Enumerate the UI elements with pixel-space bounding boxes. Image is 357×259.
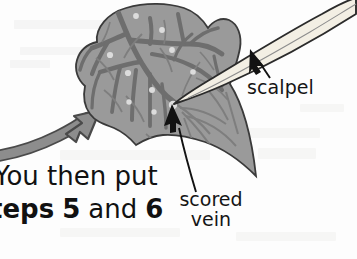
body-text-step-number-6: 6	[145, 194, 163, 224]
scored-vein-label: scoredvein	[163, 190, 259, 230]
body-text-and: and	[88, 194, 137, 224]
scored-vein-label-line1: scored	[179, 188, 242, 210]
leaf	[76, 4, 256, 176]
scored-vein-label-line2: vein	[163, 210, 259, 230]
curved-direction-arrow	[0, 110, 100, 157]
body-text-line-1: You then put	[0, 163, 158, 190]
illustration-page: scalpel scoredvein You then put teps5and…	[0, 0, 357, 259]
body-text-bold-steps: teps	[0, 194, 54, 224]
body-text-line-2: teps5and6	[0, 196, 163, 223]
body-text-step-number-5: 5	[62, 194, 80, 224]
scalpel-label: scalpel	[247, 78, 314, 98]
